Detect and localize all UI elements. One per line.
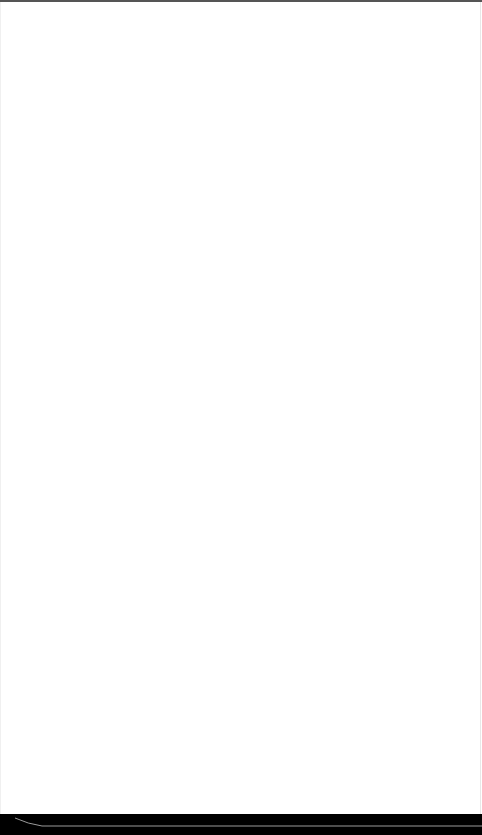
bottom-bar — [0, 814, 482, 835]
curve-indicator-icon — [0, 814, 482, 835]
blank-page — [0, 2, 481, 814]
